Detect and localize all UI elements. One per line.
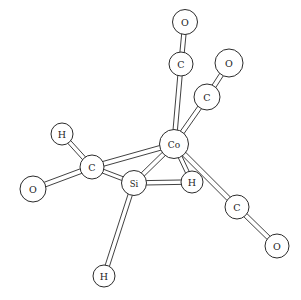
molecular-structure-diagram: OCOCCoHCOSiHCOH — [0, 0, 301, 300]
atom-Co_center: Co — [160, 130, 189, 159]
atom-C_lower_right: C — [225, 195, 249, 219]
atom-O_upper_right: O — [215, 49, 243, 77]
atom-circle-O_top — [173, 10, 198, 35]
atom-circle-C_lower_right — [225, 195, 249, 219]
atom-circle-O_left — [20, 176, 46, 202]
atom-circle-Co_center — [160, 130, 189, 159]
figure-background — [0, 0, 301, 300]
atom-C_top: C — [169, 52, 193, 76]
atom-circle-C_upper_right — [194, 84, 220, 110]
atom-circle-H_upper_left — [51, 123, 73, 145]
atom-H_bridge: H — [181, 171, 203, 193]
molecule-figure: OCOCCoHCOSiHCOH — [0, 0, 301, 300]
atom-C_upper_right: C — [194, 84, 220, 110]
atom-O_lower_right: O — [265, 234, 289, 258]
atom-circle-Si_center — [122, 171, 147, 196]
atom-O_left: O — [20, 176, 46, 202]
atom-circle-O_lower_right — [265, 234, 289, 258]
atom-circle-H_bottom — [93, 265, 115, 287]
atom-circle-C_acyl_left — [80, 155, 104, 179]
atom-O_top: O — [173, 10, 198, 35]
atom-C_acyl_left: C — [80, 155, 104, 179]
atom-circle-C_top — [169, 52, 193, 76]
atom-Si_center: Si — [122, 171, 147, 196]
atom-H_upper_left: H — [51, 123, 73, 145]
atom-H_bottom: H — [93, 265, 115, 287]
atom-circle-O_upper_right — [215, 49, 243, 77]
atom-circle-H_bridge — [181, 171, 203, 193]
